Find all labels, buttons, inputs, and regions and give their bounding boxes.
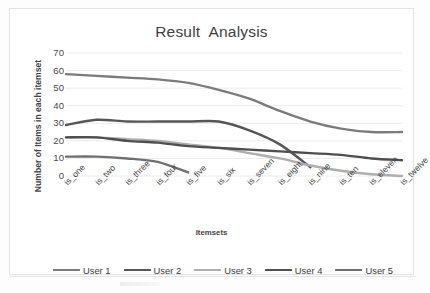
legend-swatch-icon (53, 269, 80, 272)
y-tick-label: 50 (53, 83, 64, 93)
y-tick-label: 60 (53, 66, 64, 76)
legend-swatch-icon (265, 269, 292, 272)
legend-label: User 5 (365, 265, 393, 276)
legend-item[interactable]: User 5 (335, 265, 393, 276)
legend-item[interactable]: User 1 (53, 265, 111, 276)
y-axis-tick-labels: 010203040506070 (40, 53, 64, 176)
scan-artifact-line (10, 276, 416, 277)
x-axis-title: Itemsets (10, 228, 413, 237)
plot-svg (66, 53, 402, 176)
legend-swatch-icon (124, 269, 151, 272)
chart-title: Result Analysis (10, 23, 413, 41)
y-tick-label: 20 (53, 136, 64, 146)
scan-artifact-smudge (120, 282, 160, 286)
legend-label: User 1 (83, 265, 111, 276)
chart-frame: Result Analysis Number of Items in each … (9, 8, 414, 275)
legend-item[interactable]: User 4 (265, 265, 323, 276)
legend-item[interactable]: User 2 (124, 265, 182, 276)
legend-swatch-icon (194, 269, 221, 272)
legend-swatch-icon (335, 269, 362, 272)
legend-label: User 3 (224, 265, 252, 276)
y-tick-label: 40 (53, 101, 64, 111)
y-tick-label: 30 (53, 118, 64, 128)
y-tick-label: 10 (53, 154, 64, 164)
legend-item[interactable]: User 3 (194, 265, 252, 276)
legend-label: User 4 (295, 265, 323, 276)
x-axis-tick-labels: is_oneis_twois_threeis_fouris_fiveis_six… (66, 177, 402, 229)
plot-area (66, 53, 402, 176)
legend-label: User 2 (154, 265, 182, 276)
y-tick-label: 70 (53, 48, 64, 58)
